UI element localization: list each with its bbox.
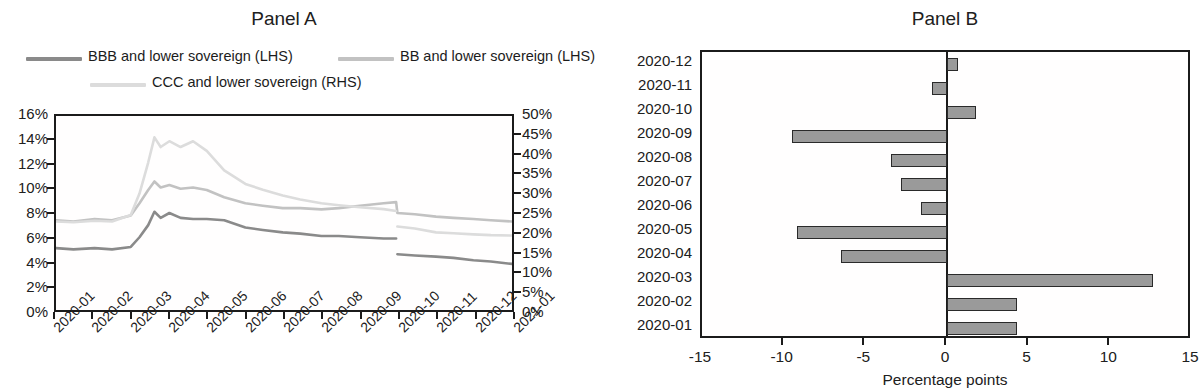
panel-b-bar [932, 82, 947, 95]
panel-b-category-label: 2020-09 [600, 124, 692, 141]
panel-b-x-tick-label: -15 [675, 348, 725, 366]
panel-a-plot-area [54, 114, 514, 312]
panel-b-bar [792, 130, 947, 143]
panel-a-title: Panel A [0, 8, 568, 30]
panel-a-series-line [397, 227, 512, 236]
panel-b-category-label: 2020-04 [600, 244, 692, 261]
panel-a-right-tick-label: 45% [522, 125, 560, 142]
panel-b-category-label: 2020-06 [600, 196, 692, 213]
panel-a-legend: BBB and lower sovereign (LHS)BB and lowe… [8, 46, 608, 104]
panel-a-series-line [56, 212, 396, 250]
panel-b-bar [891, 154, 947, 167]
panel-a-right-tick-label: 30% [522, 184, 560, 201]
panel-b-bar [947, 322, 1017, 335]
panel-b-category-label: 2020-03 [600, 268, 692, 285]
panel-b-bar [947, 58, 958, 71]
panel-a-left-tick-label: 4% [0, 254, 48, 271]
panel-b-category-label: 2020-12 [600, 52, 692, 69]
panel-b-category-label: 2020-11 [600, 76, 692, 93]
panel-a-right-tick-label: 15% [522, 244, 560, 261]
legend-label: BBB and lower sovereign (LHS) [88, 48, 293, 64]
panel-a-left-tick-mark [47, 138, 54, 140]
panel-b-category-label: 2020-10 [600, 100, 692, 117]
panel-a-right-tick-mark [514, 271, 521, 273]
panel-b-title: Panel B [700, 8, 1190, 30]
panel-a-lines [56, 116, 512, 310]
legend-swatch-line-icon [338, 57, 394, 61]
panel-a-left-tick-label: 0% [0, 303, 48, 320]
panel-a-right-tick-mark [514, 291, 521, 293]
panel-a-right-tick-mark [514, 252, 521, 254]
panel-b-zero-line [946, 52, 948, 336]
panel-a-right-tick-mark [514, 192, 521, 194]
panel-a-left-tick-label: 16% [0, 105, 48, 122]
panel-b-x-tick-label: -10 [757, 348, 807, 366]
panel-b-x-tick-label: 15 [1165, 348, 1203, 366]
panel-a-left-tick-mark [47, 237, 54, 239]
panel-a-left-tick-label: 6% [0, 229, 48, 246]
panel-a-left-tick-mark [47, 286, 54, 288]
panel-b-bar [947, 106, 976, 119]
panel-b-category-label: 2020-05 [600, 220, 692, 237]
panel-b-bar [901, 178, 947, 191]
panel-b-plot-area [700, 50, 1190, 338]
panel-a-left-tick-label: 2% [0, 278, 48, 295]
panel-b-category-label: 2020-08 [600, 148, 692, 165]
panel-b-x-tick-mark [1107, 338, 1109, 345]
panel-b-x-tick-mark [862, 338, 864, 345]
panel-b-x-tick-label: 0 [920, 348, 970, 366]
panel-a-right-tick-mark [514, 212, 521, 214]
panel-b-x-tick-label: 10 [1083, 348, 1133, 366]
panel-b-x-axis-label: Percentage points [700, 371, 1190, 389]
panel-b-category-label: 2020-07 [600, 172, 692, 189]
panel-a-left-tick-mark [47, 212, 54, 214]
panel-b-x-tick-mark [944, 338, 946, 345]
legend-swatch-line-icon [26, 57, 82, 61]
panel-a-left-tick-mark [47, 262, 54, 264]
panel-a-left-tick-mark [47, 187, 54, 189]
panel-a-right-tick-label: 35% [522, 164, 560, 181]
panel-a-left-tick-label: 14% [0, 130, 48, 147]
panel-b-x-tick-label: 5 [1002, 348, 1052, 366]
panel-a-series-line [56, 137, 396, 222]
panel-b-category-label: 2020-01 [600, 316, 692, 333]
panel-a-right-tick-mark [514, 172, 521, 174]
legend-label: CCC and lower sovereign (RHS) [152, 74, 362, 90]
panel-a-left-tick-label: 12% [0, 155, 48, 172]
panel-a-right-tick-mark [514, 153, 521, 155]
panel-a-right-tick-label: 40% [522, 145, 560, 162]
panel-a-right-tick-label: 50% [522, 105, 560, 122]
legend-label: BB and lower sovereign (LHS) [400, 48, 595, 64]
panel-b-bar [947, 274, 1153, 287]
panel-b-bar [921, 202, 947, 215]
panel-a-right-tick-mark [514, 232, 521, 234]
panel-a-left-tick-mark [47, 163, 54, 165]
panel-a-right-tick-label: 25% [522, 204, 560, 221]
panel-a-left-tick-label: 10% [0, 179, 48, 196]
legend-swatch-line-icon [90, 83, 146, 87]
panel-b-x-tick-label: -5 [838, 348, 888, 366]
panel-a-right-tick-mark [514, 133, 521, 135]
panel-a-series-line [56, 181, 512, 221]
panel-a-series-line [397, 254, 512, 264]
panel-a-right-tick-label: 20% [522, 224, 560, 241]
panel-a-left-tick-label: 8% [0, 204, 48, 221]
panel-b-bar [841, 250, 947, 263]
panel-b-x-tick-mark [1026, 338, 1028, 345]
panel-b-bar [947, 298, 1017, 311]
panel-b-category-label: 2020-02 [600, 292, 692, 309]
panel-b-x-tick-mark [781, 338, 783, 345]
panel-a-right-tick-label: 10% [522, 263, 560, 280]
panel-b-bar [797, 226, 947, 239]
